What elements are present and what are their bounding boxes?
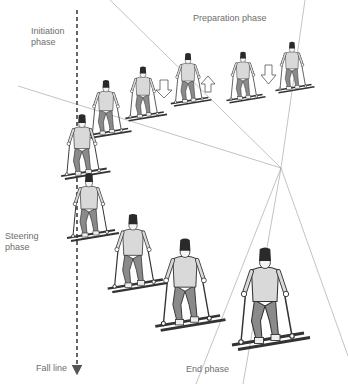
fall-line-label: Fall line [36,363,67,374]
end-phase-label: End phase [186,364,229,375]
preparation-phase-label: Preparation phase [193,13,267,24]
illustration [0,0,348,384]
weight-down-arrow-2-icon [261,65,276,84]
skier-5 [87,80,131,138]
steering-phase-label: Steering phase [5,231,39,253]
skier-7 [67,173,119,241]
skier-1 [276,42,315,93]
ski-turn-diagram: Initiation phase Preparation phase Steer… [0,0,348,384]
weight-up-arrow-icon [201,76,215,92]
skier-2 [227,52,266,103]
skier-9 [155,239,225,331]
weight-down-arrow-1-icon [156,80,172,98]
skier-8 [108,214,168,292]
initiation-phase-label: Initiation phase [31,26,65,48]
